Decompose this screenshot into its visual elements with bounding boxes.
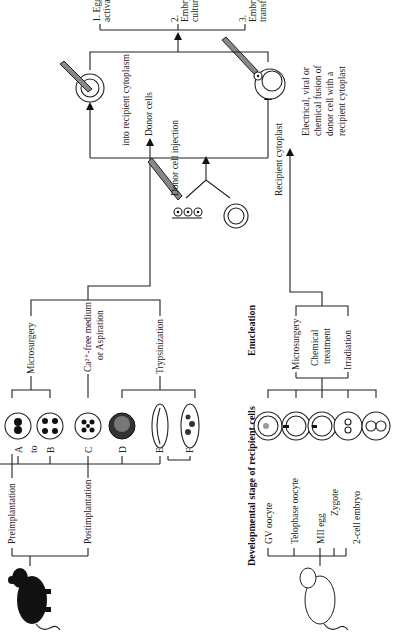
diagram-canvas: Preimplantation Postimplantation A to B … bbox=[0, 0, 403, 636]
embryo-c-icon bbox=[75, 413, 101, 439]
step-1-label: 1. Egg activation bbox=[92, 0, 112, 22]
fusion-line-2: chemical fusion of bbox=[312, 65, 324, 136]
ca-free-label-line1: Ca²⁺-free medium bbox=[83, 302, 93, 372]
two-cell-embryo-icon bbox=[362, 412, 390, 440]
fusion-line-3: donor cell with a bbox=[324, 65, 336, 136]
zygote-icon bbox=[334, 412, 362, 440]
ca-free-label-line2: or Aspiration bbox=[95, 310, 105, 360]
injection-label: into recipient cytoplasm bbox=[120, 54, 132, 146]
injection-label-line1: Donor cell injection bbox=[170, 120, 180, 196]
fusion-line-1: Electrical, viral or bbox=[300, 65, 312, 136]
stage-d-label: D bbox=[118, 446, 128, 453]
telophase-oocyte-icon bbox=[282, 412, 310, 440]
step-3-label: 3. Embryo transfer bbox=[238, 0, 268, 22]
recipient-stage-gv: GV oocyte bbox=[264, 503, 274, 544]
stage-c-label: C bbox=[84, 447, 94, 453]
recipient-stage-2cell: 2-cell embryo bbox=[352, 491, 362, 544]
embryo-a-icon bbox=[5, 413, 31, 439]
mii-egg-icon bbox=[308, 412, 336, 440]
recipient-stage-telophase: Telophase oocyte bbox=[290, 478, 300, 544]
recipient-stage-mii: MII egg bbox=[316, 513, 326, 544]
injection-cell-icon bbox=[60, 61, 104, 102]
preimplantation-label: Preimplantation bbox=[7, 483, 17, 544]
injection-label-line2: into recipient cytoplasm bbox=[120, 54, 132, 146]
fusion-label: Electrical, viral or chemical fusion of … bbox=[300, 65, 348, 136]
enucleation-chemical: Chemical bbox=[310, 329, 320, 366]
stage-to-label: to bbox=[29, 445, 39, 453]
recipient-stage-zygote: Zygote bbox=[330, 489, 340, 516]
embryo-e-icon bbox=[152, 404, 168, 448]
donor-cells-dish-icon bbox=[172, 208, 202, 218]
donor-cells-label: Donor cells bbox=[144, 92, 154, 136]
gv-oocyte-icon bbox=[254, 412, 282, 440]
fusion-line-4: recipient cytoplast bbox=[336, 65, 348, 136]
enucleation-heading: Enucleation bbox=[246, 304, 257, 356]
white-mouse-icon bbox=[300, 568, 348, 630]
postimplantation-label: Postimplantation bbox=[83, 479, 93, 544]
stage-b-label: B bbox=[46, 447, 56, 453]
stage-a-label: A bbox=[14, 446, 24, 453]
embryo-b-icon bbox=[37, 413, 63, 439]
trypsinization-label: Trypsinization bbox=[155, 319, 165, 374]
microsurgery-donor-label: Microsurgery bbox=[26, 322, 36, 374]
recipient-cytoplast-label: Recipient cytoplast bbox=[274, 123, 284, 196]
black-mouse-icon bbox=[8, 568, 60, 630]
embryo-f-icon bbox=[181, 404, 199, 448]
step-2-label: 2. Embryo culture bbox=[170, 0, 200, 22]
enucleation-treatment: treatment bbox=[322, 328, 332, 364]
recipient-cytoplast-icon bbox=[224, 204, 248, 228]
enucleation-irradiation: Irradiation bbox=[343, 330, 353, 370]
enucleation-microsurgery: Microsurgery bbox=[291, 318, 301, 370]
embryo-d-icon bbox=[109, 413, 135, 439]
fusion-cell-icon bbox=[222, 37, 285, 99]
